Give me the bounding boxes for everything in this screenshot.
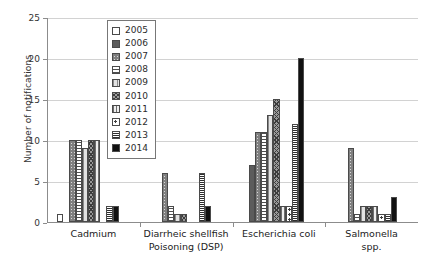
group-separator-tick [140,223,141,227]
x-axis-category-labels: CadmiumDiarrheic shellfish Poisoning (DS… [47,228,418,272]
group-separator-tick [233,223,234,227]
y-tick-label: 10 [29,136,40,146]
legend-item-label: 2013 [125,131,148,140]
group-separator-tick [325,223,326,227]
legend-swatch-icon [112,27,120,35]
legend-swatch-icon [112,79,120,87]
legend-item-2013: 2013 [112,129,148,142]
plot-area: 0510152025 [47,18,418,223]
legend-item-2007: 2007 [112,50,148,63]
y-tick-label: 15 [29,95,40,105]
y-tick-mark [43,223,47,224]
legend-item-label: 2011 [125,105,148,114]
y-tick-label: 25 [29,13,40,23]
y-tick-mark [43,141,47,142]
bar [94,140,100,222]
category-label: Cadmium [71,228,117,241]
y-tick-label: 5 [34,177,40,187]
category-label: Escherichia coli [242,228,316,241]
legend-item-label: 2010 [125,92,148,101]
bar [57,214,63,222]
legend-item-label: 2006 [125,39,148,48]
category-label: Diarrheic shellfish Poisoning (DSP) [144,228,229,253]
bar [181,214,187,222]
category-label: Salmonella spp. [345,228,398,253]
bar [273,99,279,222]
legend-item-2005: 2005 [112,24,148,37]
legend-item-2009: 2009 [112,76,148,89]
legend-swatch-icon [112,144,120,152]
y-tick-mark [43,182,47,183]
legend-swatch-icon [112,40,120,48]
y-tick-mark [43,59,47,60]
bar [205,206,211,222]
legend-item-label: 2007 [125,52,148,61]
y-tick-mark [43,100,47,101]
chart-legend: 2005200620072008200920102011201220132014 [107,20,156,159]
legend-item-label: 2005 [125,26,148,35]
y-axis-title: Number of notifications [23,29,33,189]
legend-item-label: 2009 [125,78,148,87]
legend-swatch-icon [112,118,120,126]
legend-swatch-icon [112,105,120,113]
legend-item-label: 2008 [125,65,148,74]
legend-swatch-icon [112,131,120,139]
bar [391,197,397,222]
legend-item-label: 2014 [125,144,148,153]
bar-chart: Number of notifications 0510152025 20052… [0,0,429,274]
legend-item-2008: 2008 [112,63,148,76]
legend-swatch-icon [112,92,120,100]
bar [298,58,304,222]
bar [348,148,354,222]
legend-item-2014: 2014 [112,142,148,155]
legend-swatch-icon [112,66,120,74]
legend-item-2006: 2006 [112,37,148,50]
y-tick-label: 20 [29,54,40,64]
legend-swatch-icon [112,53,120,61]
legend-item-2010: 2010 [112,89,148,102]
legend-item-2012: 2012 [112,116,148,129]
bars-layer [48,18,418,222]
legend-item-2011: 2011 [112,103,148,116]
legend-item-label: 2012 [125,118,148,127]
y-tick-label: 0 [34,218,40,228]
bar [113,206,119,222]
y-tick-mark [43,18,47,19]
